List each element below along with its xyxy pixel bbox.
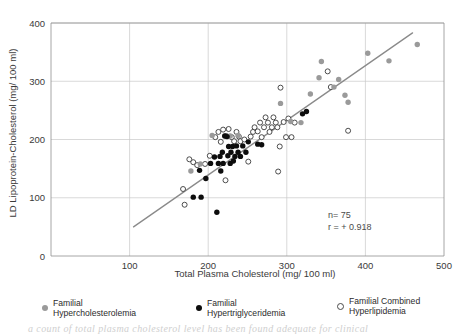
legend-entry-combined-hyperlipidemia[interactable]: Familial Combined Hyperlipidemia: [337, 296, 420, 316]
svg-text:200: 200: [29, 134, 45, 145]
plot-canvas: 100200300400500 0100200300400 Total Plas…: [0, 0, 453, 335]
scatter-plot-figure: 100200300400500 0100200300400 Total Plas…: [0, 0, 453, 335]
svg-text:500: 500: [436, 260, 452, 271]
y-axis-title: LD Lipoprotein-Cholesterol (mg/ 100 ml): [7, 49, 18, 218]
y-tick-labels: 0100200300400: [29, 18, 45, 262]
annotation-sample-size: n= 75: [328, 210, 351, 220]
svg-text:400: 400: [357, 260, 373, 271]
gray-filled-circle-icon: [42, 305, 48, 311]
annotation-correlation: r = + 0.918: [328, 222, 372, 232]
open-circle-icon: [337, 303, 344, 310]
legend-label: Familial Hypercholesterolemia: [53, 298, 136, 318]
legend-entry-hypercholesterolemia[interactable]: Familial Hypercholesterolemia: [42, 298, 136, 318]
black-filled-circle-icon: [196, 305, 202, 311]
svg-text:100: 100: [122, 260, 138, 271]
page-caption-fragment: a count of total plasma cholesterol leve…: [0, 323, 453, 335]
series-familial-combined-hyperlipidemia-points: [181, 69, 351, 207]
svg-text:0: 0: [40, 251, 45, 262]
svg-text:300: 300: [29, 76, 45, 87]
legend: Familial Hypercholesterolemia Familial H…: [0, 296, 453, 324]
legend-entry-hypertriglyceridemia[interactable]: Familial Hypertriglyceridemia: [196, 298, 285, 318]
x-axis-title: Total Plasma Cholesterol (mg/ 100 ml): [174, 268, 335, 279]
svg-text:400: 400: [29, 18, 45, 29]
svg-text:100: 100: [29, 192, 45, 203]
legend-label: Familial Combined Hyperlipidemia: [349, 296, 420, 316]
legend-label: Familial Hypertriglyceridemia: [207, 298, 285, 318]
